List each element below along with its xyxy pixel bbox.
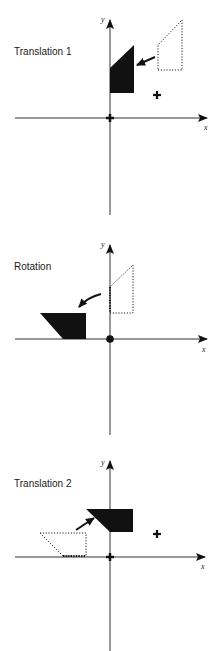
motion-arrow-icon [76,518,94,530]
rotation-arrow-icon [79,294,101,307]
diagram-canvas [0,0,223,651]
panel-title-rotation: Rotation [14,261,51,272]
panel-title-translation-2: Translation 2 [14,478,71,489]
solid-rotated-shape [40,313,86,339]
panel-translation-2 [15,461,205,651]
dotted-original-shape [158,20,182,70]
origin-cross-icon [106,114,114,122]
pivot-cross-icon [153,530,161,538]
pivot-cross-icon [153,91,161,99]
y-axis-label: y [101,240,105,249]
panel-title-translation-1: Translation 1 [14,46,71,57]
panel-rotation [15,245,207,435]
origin-dot-icon [106,335,114,343]
x-axis-label: x [201,562,205,571]
solid-final-shape [86,509,133,532]
motion-arrow-icon [137,57,155,65]
dotted-prerotation-shape [110,265,133,313]
dotted-origin-shape [40,533,86,556]
origin-cross-icon [106,553,114,561]
solid-translated-shape [110,45,134,93]
y-axis-label: y [101,15,105,24]
x-axis-label: x [204,123,208,132]
y-axis-label: y [101,458,105,467]
x-axis-label: x [202,345,206,354]
